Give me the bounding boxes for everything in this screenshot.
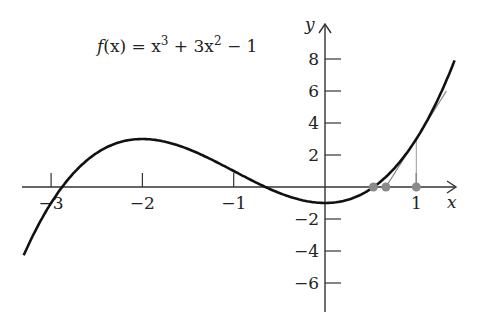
iterate-point [381,183,390,192]
iterate-point [412,183,421,192]
chart-title: f(x) = x3 + 3x2 − 1 [95,34,257,56]
x-tick-label: −2 [130,193,155,213]
y-tick-label: −4 [294,241,319,261]
y-axis-label: y [304,14,315,34]
x-tick-label: −1 [221,193,246,213]
iterate-point [369,183,378,192]
x-axis-label: x [447,192,457,212]
y-tick-label: 8 [308,49,319,69]
y-tick-label: 6 [308,81,319,101]
chart: −3−2−11 8642−2−4−6 x y f(x) = x3 + 3x2 −… [0,0,483,324]
y-tick-label: −6 [294,273,319,293]
y-ticks: 8642−2−4−6 [294,49,341,293]
function-curve [24,60,455,255]
y-tick-label: 4 [308,113,319,133]
x-tick-label: 1 [411,193,422,213]
y-tick-label: 2 [308,145,319,165]
y-tick-label: −2 [294,209,319,229]
